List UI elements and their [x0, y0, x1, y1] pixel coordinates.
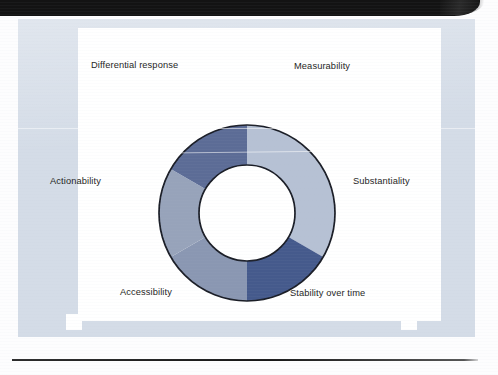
chart-card: Differential response Measurability Subs…	[78, 28, 441, 316]
chart-card-foot-right	[401, 314, 417, 330]
chart-label-substantiality: Substantiality	[353, 176, 410, 186]
scanned-page: Differential response Measurability Subs…	[0, 0, 498, 375]
scanner-top-shadow-edge	[440, 0, 486, 15]
chart-card-skirt	[78, 316, 441, 321]
chart-label-actionability: Actionability	[50, 176, 101, 186]
page-bottom-rule	[12, 359, 478, 361]
chart-label-measurability: Measurability	[294, 61, 350, 71]
scanner-top-shadow	[0, 0, 480, 16]
donut-inner-outline	[199, 165, 295, 261]
donut-chart	[78, 28, 441, 316]
chart-label-accessibility: Accessibility	[120, 287, 172, 297]
chart-label-differential-response: Differential response	[91, 60, 178, 70]
chart-label-stability-over-time: Stability over time	[290, 288, 365, 298]
donut-slice-measurability[interactable]	[247, 125, 335, 257]
donut-chart-svg	[78, 28, 441, 316]
chart-card-foot-left	[66, 314, 82, 330]
